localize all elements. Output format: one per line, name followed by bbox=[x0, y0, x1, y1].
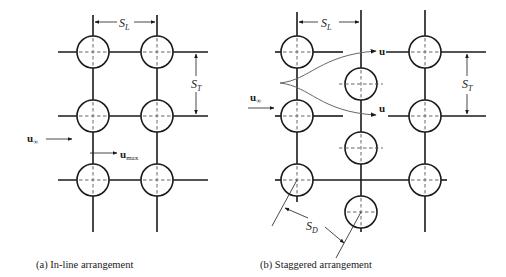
svg-text:umax: umax bbox=[120, 148, 139, 162]
tube bbox=[339, 132, 383, 164]
svg-text:SL: SL bbox=[321, 16, 332, 32]
transverse-pitch-dimension: ST bbox=[462, 54, 473, 114]
svg-text:u∞: u∞ bbox=[250, 91, 261, 105]
freestream-velocity-arrow: u∞ bbox=[27, 132, 72, 146]
tube-bank-diagram: SL ST u∞ umax (a) In-line arrangement bbox=[0, 0, 506, 277]
tube bbox=[281, 36, 313, 68]
tube bbox=[77, 164, 109, 196]
tube bbox=[409, 100, 441, 132]
panel-inline: SL ST u∞ umax (a) In-line arrangement bbox=[27, 15, 208, 271]
tube bbox=[141, 164, 173, 196]
tube bbox=[141, 100, 173, 132]
caption-staggered: (b) Staggered arrangement bbox=[260, 259, 372, 271]
tube bbox=[409, 36, 441, 68]
svg-text:SD: SD bbox=[306, 219, 318, 235]
caption-inline: (a) In-line arrangement bbox=[36, 259, 133, 271]
velocity-label-mid: u bbox=[379, 102, 385, 114]
svg-text:SL: SL bbox=[119, 16, 130, 32]
tube bbox=[409, 164, 441, 196]
tube bbox=[141, 36, 173, 68]
longitudinal-pitch-dimension: SL bbox=[95, 16, 155, 32]
tube bbox=[77, 36, 109, 68]
svg-text:ST: ST bbox=[462, 77, 473, 93]
freestream-velocity-arrow: u∞ bbox=[248, 91, 274, 108]
max-velocity-arrow: umax bbox=[90, 148, 139, 162]
panel-staggered: u u u∞ SL ST SD (b) Staggered arrangemen bbox=[248, 10, 486, 271]
svg-text:u∞: u∞ bbox=[27, 132, 38, 146]
transverse-pitch-dimension: ST bbox=[191, 54, 202, 114]
tube bbox=[339, 68, 383, 100]
velocity-label-top: u bbox=[379, 45, 385, 57]
svg-text:ST: ST bbox=[191, 77, 202, 93]
tube bbox=[77, 100, 109, 132]
longitudinal-pitch-dimension: SL bbox=[299, 16, 359, 32]
tube bbox=[281, 100, 313, 132]
